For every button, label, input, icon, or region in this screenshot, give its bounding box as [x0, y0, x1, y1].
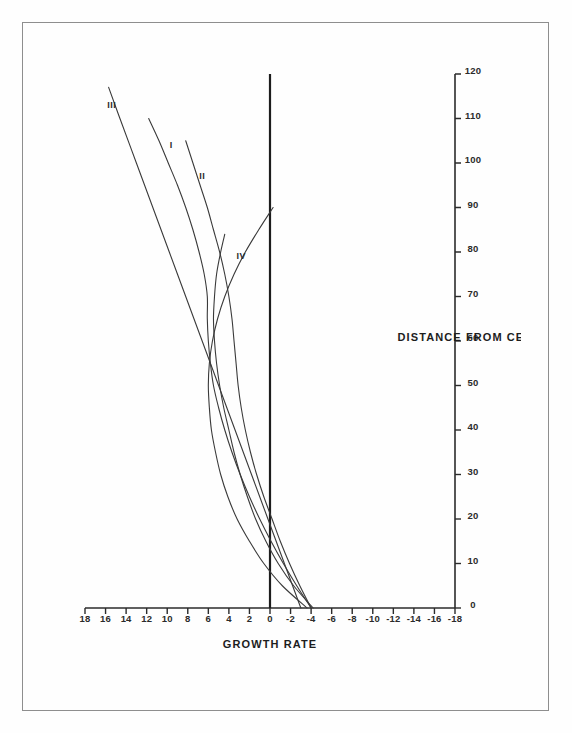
x-tick-label: 40 — [468, 421, 479, 432]
y-tick-label: 6 — [206, 613, 211, 624]
curves — [109, 87, 314, 608]
x-tick-label: 0 — [470, 599, 475, 610]
y-tick-label: -4 — [307, 613, 316, 624]
growth-rate-line-chart: 0102030405060708090100110120181614121086… — [51, 46, 521, 686]
x-tick-label: 100 — [465, 154, 481, 165]
x-tick-label: 80 — [468, 243, 479, 254]
y-tick-label: 14 — [121, 613, 132, 624]
y-tick-label: 4 — [226, 613, 232, 624]
x-tick-label: 20 — [468, 510, 479, 521]
y-tick-label: 0 — [267, 613, 272, 624]
curve-label-iv: IV — [236, 251, 246, 261]
curve-iii — [109, 87, 301, 608]
figure-rotator: 0102030405060708090100110120181614121086… — [51, 46, 521, 686]
x-tick-label: 70 — [468, 288, 479, 299]
y-tick-label: -8 — [348, 613, 357, 624]
y-tick-label: -6 — [327, 613, 336, 624]
y-tick-label: -18 — [448, 613, 462, 624]
x-tick-label: 120 — [465, 65, 481, 76]
curve-ii — [186, 141, 311, 608]
x-tick-label: 30 — [468, 466, 479, 477]
curve-label-iii: III — [107, 100, 116, 110]
y-tick-label: -12 — [386, 613, 400, 624]
x-tick-label: 10 — [468, 555, 479, 566]
y-tick-label: -10 — [366, 613, 380, 624]
x-tick-label: 90 — [468, 199, 479, 210]
scan-page: 0102030405060708090100110120181614121086… — [0, 0, 572, 733]
y-tick-label: 8 — [185, 613, 190, 624]
y-tick-label: 16 — [100, 613, 111, 624]
x-axis-title: DISTANCE FROM CENTRAL CITY — [398, 331, 521, 343]
y-tick-label: -14 — [407, 613, 422, 624]
curve-label-i: I — [170, 140, 173, 150]
y-tick-label: 18 — [80, 613, 91, 624]
curve-i — [149, 119, 311, 609]
curve-iv — [213, 234, 313, 608]
y-tick-label: 12 — [141, 613, 152, 624]
y-tick-label: -2 — [286, 613, 295, 624]
plot-area: 0102030405060708090100110120181614121086… — [51, 46, 521, 686]
y-tick-label: -16 — [427, 613, 441, 624]
x-tick-label: 110 — [465, 110, 481, 121]
axes: 0102030405060708090100110120181614121086… — [80, 65, 521, 650]
labels: IIIIIIIV — [107, 100, 246, 261]
y-axis-title: GROWTH RATE — [223, 638, 317, 650]
y-tick-label: 2 — [247, 613, 252, 624]
y-tick-label: 10 — [162, 613, 173, 624]
x-tick-label: 50 — [468, 377, 479, 388]
curve-label-ii: II — [199, 171, 205, 181]
